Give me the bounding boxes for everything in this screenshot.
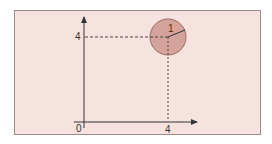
radius-label: 1 (168, 23, 174, 34)
origin-label: 0 (76, 123, 82, 134)
y-tick-label: 4 (75, 31, 81, 42)
coordinate-diagram: 4 0 4 1 (0, 0, 272, 144)
x-tick-label: 4 (165, 124, 171, 135)
